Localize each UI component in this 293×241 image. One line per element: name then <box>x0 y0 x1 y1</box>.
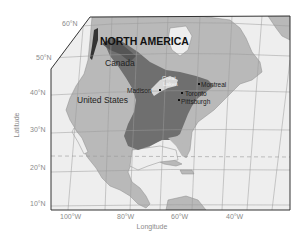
city-label-pittsburgh: Pittsburgh <box>181 98 211 106</box>
region-label-united-states: United States <box>77 95 128 105</box>
y-tick-30n: 30°N <box>30 126 46 133</box>
landmass-hispaniola <box>180 170 194 174</box>
city-marker-montreal <box>198 83 200 85</box>
y-tick-20n: 20°N <box>30 164 46 171</box>
y-tick-50n: 50°N <box>36 54 52 61</box>
city-label-montreal: Montreal <box>201 81 227 88</box>
y-tick-60n: 60°N <box>62 20 78 27</box>
x-tick-100w: 100°W <box>60 213 81 220</box>
region-label-canada: Canada <box>105 58 135 68</box>
y-axis-label: Latitude <box>13 112 20 137</box>
x-axis-label: Longitude <box>137 223 168 231</box>
map-title: NORTH AMERICA <box>100 35 189 47</box>
city-label-toronto: Toronto <box>185 90 207 97</box>
x-tick-80w: 80°W <box>117 213 135 220</box>
x-tick-60w: 60°W <box>171 213 189 220</box>
lakes-label-line2: Lakes <box>163 81 178 87</box>
map-figure: NORTH AMERICA Canada United States Madis… <box>0 0 293 241</box>
city-label-madison: Madison <box>127 87 152 94</box>
y-tick-40n: 40°N <box>30 89 46 96</box>
city-marker-madison <box>159 89 161 91</box>
y-tick-10n: 10°N <box>30 200 46 207</box>
city-marker-toronto <box>181 92 183 94</box>
x-tick-40w: 40°W <box>226 213 244 220</box>
city-marker-pittsburgh <box>178 99 180 101</box>
